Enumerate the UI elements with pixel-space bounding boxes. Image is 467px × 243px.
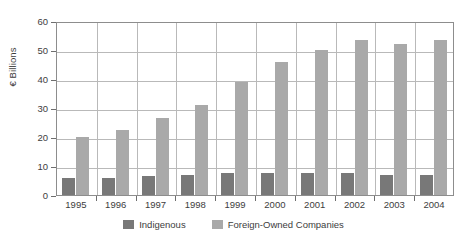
- bar-group-2004: [415, 23, 455, 195]
- bar-chart: € Billions 0102030405060 199519961997199…: [0, 0, 467, 243]
- bar-indigenous-1999: [221, 173, 234, 195]
- bar-group-1995: [57, 23, 97, 195]
- bar-indigenous-1996: [102, 178, 115, 195]
- x-tick-label-2004: 2004: [404, 200, 464, 210]
- bar-foreign-owned-companies-1999: [235, 82, 248, 195]
- bar-indigenous-2001: [301, 173, 314, 195]
- y-tick-label: 40: [14, 75, 48, 85]
- y-tick-label: 0: [14, 191, 48, 201]
- y-tick-label: 20: [14, 133, 48, 143]
- bar-indigenous-2003: [380, 175, 393, 195]
- bar-group-2000: [256, 23, 296, 195]
- bar-indigenous-1997: [142, 176, 155, 195]
- bar-indigenous-2002: [341, 173, 354, 195]
- y-tick-label: 30: [14, 104, 48, 114]
- bar-foreign-owned-companies-2002: [355, 40, 368, 195]
- legend-swatch-icon: [123, 220, 134, 229]
- y-tick-label: 60: [14, 17, 48, 27]
- bar-foreign-owned-companies-2001: [315, 50, 328, 195]
- chart-legend: IndigenousForeign-Owned Companies: [0, 219, 467, 230]
- bar-group-1998: [176, 23, 216, 195]
- bar-group-2002: [336, 23, 376, 195]
- bar-foreign-owned-companies-2003: [394, 44, 407, 195]
- legend-label: Foreign-Owned Companies: [228, 219, 344, 230]
- legend-swatch-icon: [212, 220, 223, 229]
- bar-foreign-owned-companies-1995: [76, 137, 89, 195]
- plot-area: [56, 22, 454, 196]
- bar-foreign-owned-companies-2000: [275, 62, 288, 195]
- bar-indigenous-1998: [181, 175, 194, 195]
- bar-foreign-owned-companies-2004: [434, 40, 447, 195]
- bar-indigenous-2000: [261, 173, 274, 195]
- bar-indigenous-1995: [62, 178, 75, 195]
- legend-item-foreign-owned-companies[interactable]: Foreign-Owned Companies: [212, 219, 344, 230]
- bar-group-1999: [216, 23, 256, 195]
- bar-group-2003: [375, 23, 415, 195]
- y-tick-label: 10: [14, 162, 48, 172]
- y-axis-title: € Billions: [7, 17, 25, 117]
- y-tick-mark: [51, 196, 56, 197]
- bar-group-1996: [97, 23, 137, 195]
- bar-foreign-owned-companies-1998: [195, 105, 208, 195]
- legend-item-indigenous[interactable]: Indigenous: [123, 219, 185, 230]
- bar-group-1997: [137, 23, 177, 195]
- bar-indigenous-2004: [420, 175, 433, 195]
- y-tick-label: 50: [14, 46, 48, 56]
- bar-foreign-owned-companies-1996: [116, 130, 129, 195]
- legend-label: Indigenous: [139, 219, 185, 230]
- bar-group-2001: [296, 23, 336, 195]
- bar-foreign-owned-companies-1997: [156, 118, 169, 195]
